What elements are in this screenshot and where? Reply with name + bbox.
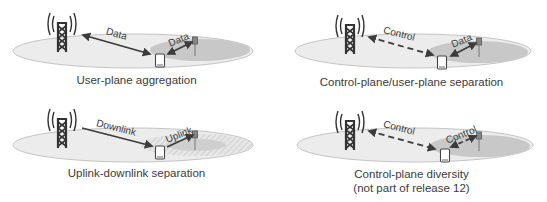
device-icon: [441, 149, 450, 162]
scenario-caption: Control-plane/user-plane separation: [275, 76, 547, 89]
panel-user-plane-aggregation: Data Data User-plane aggregation: [0, 0, 273, 101]
device-icon: [156, 54, 165, 67]
device-icon: [438, 56, 447, 69]
device-icon: [156, 146, 165, 159]
panel-uplink-downlink-separation: Downlink Uplink Uplink-downlink separati…: [0, 101, 273, 202]
scenario-caption-note: (not part of release 12): [275, 182, 547, 195]
scenario-caption: Control-plane diversity: [275, 168, 547, 181]
panel-control-user-plane-separation: Control Data Control-plane/user-plane se…: [275, 0, 547, 101]
scenario-caption: Uplink-downlink separation: [0, 167, 273, 180]
scenario-diagram: [0, 101, 273, 202]
panel-control-plane-diversity: Control Control Control-plane diversity …: [275, 101, 547, 202]
scenario-caption: User-plane aggregation: [0, 74, 273, 87]
